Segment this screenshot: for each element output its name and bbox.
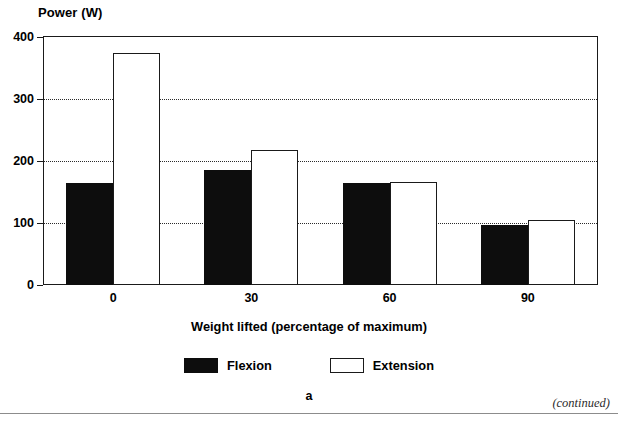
legend-label-extension: Extension <box>373 358 434 373</box>
panel-letter: a <box>0 389 618 403</box>
bar-extension-60 <box>390 182 437 285</box>
legend-entry-flexion: Flexion <box>184 358 272 373</box>
legend-entry-extension: Extension <box>330 358 434 373</box>
y-tick-200 <box>37 161 43 162</box>
continued-note: (continued) <box>552 396 610 411</box>
y-tick-label-200: 200 <box>0 154 34 168</box>
x-tick-label-30: 30 <box>244 291 258 305</box>
legend-swatch-extension <box>330 358 364 373</box>
y-tick-0 <box>37 285 43 286</box>
x-tick-label-90: 90 <box>521 291 535 305</box>
bar-extension-0 <box>113 53 160 286</box>
legend-swatch-flexion <box>184 358 218 373</box>
legend-label-flexion: Flexion <box>227 358 272 373</box>
y-tick-300 <box>37 99 43 100</box>
y-tick-label-300: 300 <box>0 92 34 106</box>
figure-panel-a: Power (W) 0100200300400 0306090 Weight l… <box>0 0 618 422</box>
y-tick-label-400: 400 <box>0 30 34 44</box>
footer-divider <box>0 413 618 414</box>
bar-flexion-0 <box>66 183 113 285</box>
bar-extension-90 <box>528 220 575 285</box>
x-tick-label-0: 0 <box>110 291 117 305</box>
bar-flexion-30 <box>204 170 251 285</box>
y-tick-label-100: 100 <box>0 216 34 230</box>
plot-area <box>44 37 597 285</box>
bar-flexion-90 <box>481 225 528 285</box>
bar-flexion-60 <box>343 183 390 285</box>
legend: FlexionExtension <box>0 358 618 373</box>
y-tick-100 <box>37 223 43 224</box>
y-axis-title: Power (W) <box>38 5 102 20</box>
y-tick-label-0: 0 <box>0 278 34 292</box>
bar-extension-30 <box>251 150 298 285</box>
x-axis-title: Weight lifted (percentage of maximum) <box>0 319 618 334</box>
x-tick-label-60: 60 <box>383 291 397 305</box>
y-tick-400 <box>37 37 43 38</box>
